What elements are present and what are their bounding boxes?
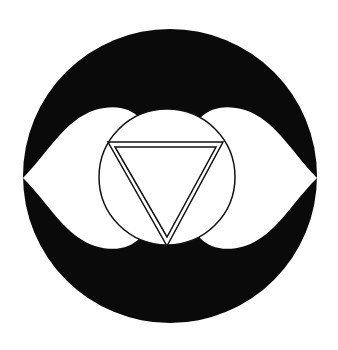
inner-circle [99,109,235,245]
chakra-symbol [0,0,338,350]
